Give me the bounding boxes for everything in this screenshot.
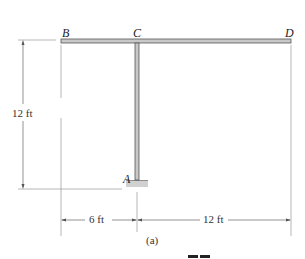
figure-caption: (a): [146, 235, 158, 246]
arrow-up: [22, 40, 25, 45]
left-span-label: 6 ft: [87, 214, 106, 225]
cropped-fragment: [188, 255, 198, 258]
arrow-right-d: [286, 219, 291, 222]
point-label-a: A: [123, 173, 130, 185]
point-label-b: B: [62, 27, 69, 39]
frame-diagram: [0, 0, 305, 259]
beam-bd: [61, 39, 291, 43]
point-label-d: D: [285, 27, 294, 39]
right-span-label: 12 ft: [201, 214, 225, 225]
point-label-c: C: [133, 27, 141, 39]
cropped-fragment-2: [200, 255, 210, 258]
arrow-down: [22, 184, 25, 189]
arrow-left-a: [137, 219, 142, 222]
arrow-right-a: [132, 219, 137, 222]
height-dimension-label: 12 ft: [10, 108, 34, 119]
arrow-left-b: [61, 219, 66, 222]
column-ca: [135, 43, 139, 180]
